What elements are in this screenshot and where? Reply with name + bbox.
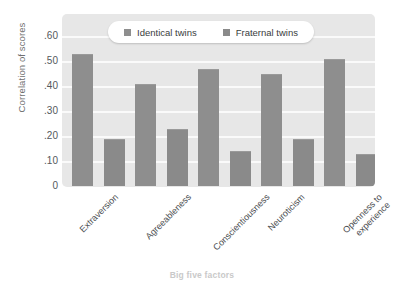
x-axis-title: Big five factors [0,270,404,280]
x-axis-tick-label-conscientiousness: Conscientiousness [211,192,272,253]
x-axis-tick-label-extraversion: Extraversion [77,192,120,235]
x-axis-tick-label-agreeableness: Agreeableness [143,192,193,242]
x-axis-tick-labels: ExtraversionAgreeablenessConscientiousne… [0,0,404,296]
bar-chart: Correlation of scores .60.50.40.30.20.10… [0,0,404,296]
x-axis-tick-label-openness-to-experience: Openness to experience [333,192,392,251]
